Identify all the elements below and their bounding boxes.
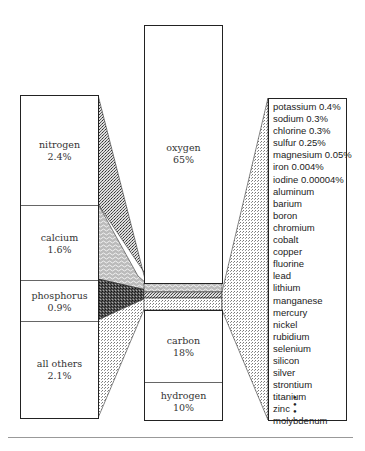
left-column: nitrogen2.4% calcium1.6% phosphorus0.9% …: [20, 95, 99, 419]
segment-all-others: all others2.1%: [21, 321, 98, 418]
trace-elements-items: potassium 0.4%sodium 0.3%chlorine 0.3%su…: [273, 101, 352, 428]
trace-element-item: nickel: [273, 319, 352, 331]
trace-element-item: silicon: [273, 355, 352, 367]
others-name: all others: [37, 358, 82, 370]
continuation-dots: •••: [269, 395, 321, 416]
segment-oxygen: oxygen65%: [145, 26, 222, 282]
trace-elements-list: potassium 0.4%sodium 0.3%chlorine 0.3%su…: [268, 98, 347, 421]
phosphorus-name: phosphorus: [31, 290, 87, 302]
calcium-value: 1.6%: [41, 244, 79, 256]
calcium-name: calcium: [41, 232, 79, 244]
oxygen-box: oxygen65%: [144, 25, 223, 284]
nitrogen-value: 2.4%: [39, 151, 80, 163]
trace-element-item: selenium: [273, 343, 352, 355]
trace-element-item: manganese: [273, 295, 352, 307]
trace-element-item: molybdenum: [273, 415, 352, 427]
trace-element-item: iron 0.004%: [273, 161, 352, 173]
trace-element-item: potassium 0.4%: [273, 101, 352, 113]
trace-element-item: chlorine 0.3%: [273, 125, 352, 137]
phosphorus-value: 0.9%: [31, 302, 87, 314]
segment-calcium: calcium1.6%: [21, 205, 98, 281]
trace-element-item: cobalt: [273, 234, 352, 246]
trace-element-item: magnesium 0.05%: [273, 149, 352, 161]
carbon-name: carbon: [167, 335, 200, 347]
trace-element-item: boron: [273, 210, 352, 222]
nitrogen-name: nitrogen: [39, 139, 80, 151]
trace-element-item: barium: [273, 198, 352, 210]
trace-element-item: lead: [273, 270, 352, 282]
trace-element-item: strontium: [273, 379, 352, 391]
trace-element-item: mercury: [273, 307, 352, 319]
carbon-hydrogen-box: carbon18% hydrogen10%: [144, 310, 223, 421]
oxygen-value: 65%: [166, 154, 200, 166]
carbon-value: 18%: [167, 347, 200, 359]
trace-element-item: fluorine: [273, 258, 352, 270]
trace-element-item: iodine 0.00004%: [273, 174, 352, 186]
trace-element-item: sulfur 0.25%: [273, 137, 352, 149]
segment-hydrogen: hydrogen10%: [145, 382, 222, 420]
trace-element-item: silver: [273, 367, 352, 379]
hydrogen-name: hydrogen: [161, 390, 207, 402]
trace-element-item: chromium: [273, 222, 352, 234]
body-composition-diagram: nitrogen2.4% calcium1.6% phosphorus0.9% …: [0, 0, 365, 451]
segment-nitrogen: nitrogen2.4%: [21, 96, 98, 205]
hydrogen-value: 10%: [161, 402, 207, 414]
bottom-divider: [8, 437, 353, 438]
trace-element-item: rubidium: [273, 331, 352, 343]
trace-element-item: sodium 0.3%: [273, 113, 352, 125]
trace-element-item: aluminum: [273, 186, 352, 198]
oxygen-name: oxygen: [166, 142, 200, 154]
trace-element-item: copper: [273, 246, 352, 258]
segment-carbon: carbon18%: [145, 311, 222, 382]
trace-element-item: lithium: [273, 282, 352, 294]
others-value: 2.1%: [37, 370, 82, 382]
segment-phosphorus: phosphorus0.9%: [21, 280, 98, 322]
